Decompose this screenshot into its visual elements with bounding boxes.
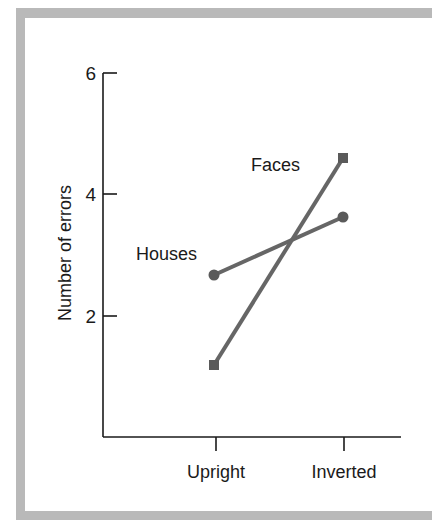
series-label-houses: Houses — [136, 244, 197, 264]
series-label-faces: Faces — [251, 155, 300, 175]
series-houses: Houses — [136, 212, 349, 281]
line-chart: 6 4 2 Number of errors Upright Inverted … — [0, 0, 432, 520]
y-axis: 6 4 2 Number of errors — [55, 63, 117, 437]
x-axis: Upright Inverted — [103, 437, 401, 482]
houses-inverted-marker — [338, 212, 349, 223]
y-axis-title: Number of errors — [55, 185, 75, 321]
faces-inverted-marker — [338, 153, 348, 163]
ytick-label-6: 6 — [85, 63, 96, 84]
faces-upright-marker — [209, 360, 219, 370]
ytick-label-2: 2 — [85, 306, 96, 327]
houses-upright-marker — [209, 270, 220, 281]
xtick-label-inverted: Inverted — [311, 462, 376, 482]
series-faces: Faces — [209, 153, 348, 370]
ytick-label-4: 4 — [85, 184, 96, 205]
xtick-label-upright: Upright — [187, 462, 245, 482]
